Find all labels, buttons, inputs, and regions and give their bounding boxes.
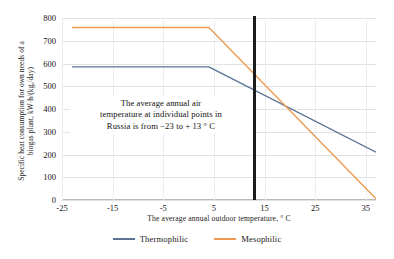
annotation-textbox: The average annual air temperature at in… xyxy=(70,96,252,134)
legend-item-mesophilic[interactable]: Mesophilic xyxy=(214,234,281,244)
y-axis-tick-label: 700 xyxy=(24,36,56,46)
x-axis-title: The average annual outdoor temperature, … xyxy=(62,214,376,223)
annotation-line-2: temperature at individual points in xyxy=(70,109,252,120)
x-axis-tick-label: 35 xyxy=(346,203,386,213)
y-axis-tick-label: 200 xyxy=(24,150,56,160)
chart-legend: ThermophilicMesophilic xyxy=(0,234,394,244)
x-axis-tick-label: -25 xyxy=(42,203,82,213)
x-axis-tick-label: 25 xyxy=(295,203,335,213)
chart-figure: Specific heat consumption for own needs … xyxy=(0,0,394,259)
gridline-horizontal xyxy=(62,200,376,201)
y-axis-tick-label: 300 xyxy=(24,127,56,137)
plot-area: 0100200300400500600700800 -25-15-5515253… xyxy=(62,18,376,200)
x-axis-tick-label: 15 xyxy=(245,203,285,213)
annotation-line-1: The average annual air xyxy=(70,98,252,109)
threshold-vertical-line xyxy=(253,16,256,200)
y-axis-tick-label: 100 xyxy=(24,172,56,182)
annotation-line-3: Russia is from −23 to + 13 ° C xyxy=(70,121,252,132)
legend-item-thermophilic[interactable]: Thermophilic xyxy=(113,234,189,244)
y-axis-tick-label: 400 xyxy=(24,104,56,114)
x-axis-tick-label: -15 xyxy=(93,203,133,213)
legend-label: Mesophilic xyxy=(241,234,281,244)
x-axis-tick-label: 5 xyxy=(194,203,234,213)
legend-swatch-icon xyxy=(214,238,236,240)
legend-swatch-icon xyxy=(113,238,135,240)
y-axis-tick-label: 500 xyxy=(24,81,56,91)
legend-label: Thermophilic xyxy=(140,234,189,244)
y-axis-tick-label: 800 xyxy=(24,13,56,23)
y-axis-tick-label: 600 xyxy=(24,59,56,69)
x-axis-tick-label: -5 xyxy=(143,203,183,213)
